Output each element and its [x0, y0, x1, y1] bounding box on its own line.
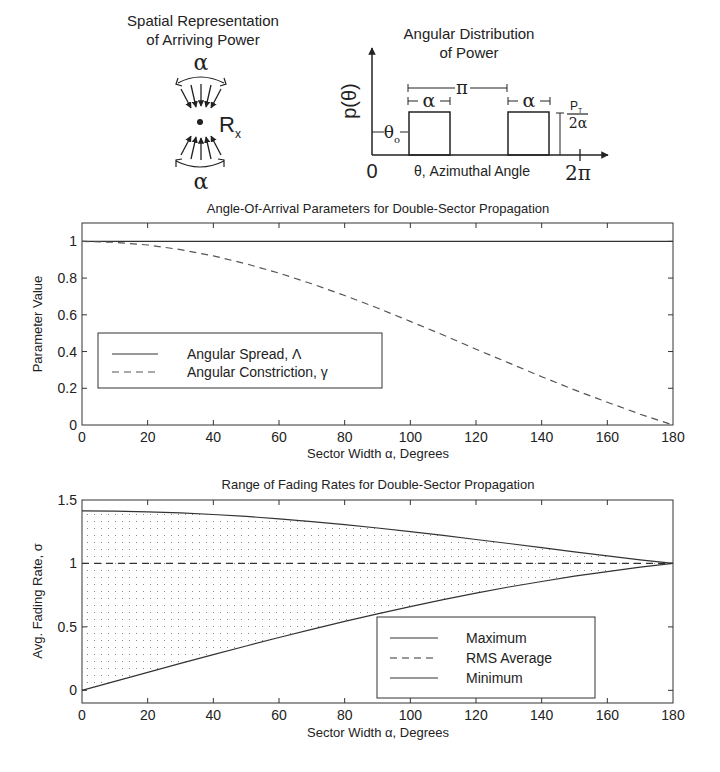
- y-tick-label: 0.4: [58, 344, 78, 360]
- x-tick-label: 160: [596, 707, 620, 723]
- x-tick-label: 160: [596, 429, 620, 445]
- legend-maximum: Maximum: [466, 630, 527, 646]
- legend-rms-average: RMS Average: [466, 650, 552, 666]
- x-tick-label: 100: [399, 429, 423, 445]
- y-tick-label: 0.2: [58, 380, 78, 396]
- chart1-xlabel: Sector Width α, Degrees: [307, 446, 449, 461]
- alpha-width-1: α: [423, 89, 436, 111]
- x-tick-label: 100: [399, 707, 423, 723]
- legend-angular-spread: Angular Spread, Λ: [187, 346, 302, 362]
- x-tick-label: 180: [661, 429, 685, 445]
- chart1-ylabel: Parameter Value: [30, 276, 45, 373]
- receiver-dot: [197, 119, 203, 125]
- sector-pulse-2: [508, 112, 549, 155]
- x-tick-label: 120: [464, 429, 488, 445]
- alpha-bottom-label: α: [194, 169, 209, 194]
- two-pi-label: 2π: [565, 161, 591, 185]
- alpha-width-2: α: [523, 89, 536, 111]
- height-denominator: 2α: [569, 115, 588, 131]
- incoming-arrows-bottom: [181, 136, 221, 160]
- x-tick-label: 60: [271, 707, 287, 723]
- y-tick-label: 0.8: [58, 270, 78, 286]
- x-tick-label: 140: [530, 707, 554, 723]
- azimuthal-angle-label: θ, Azimuthal Angle: [414, 163, 530, 179]
- pi-label: π: [456, 77, 468, 98]
- y-tick-label: 1: [69, 555, 77, 571]
- x-tick-label: 60: [271, 429, 287, 445]
- chart1-legend: Angular Spread, Λ Angular Constriction, …: [98, 333, 382, 388]
- figure: Spatial Representation of Arriving Power…: [0, 0, 720, 772]
- x-tick-label: 0: [78, 429, 86, 445]
- x-tick-label: 40: [206, 429, 222, 445]
- spatial-diagram: Spatial Representation of Arriving Power…: [127, 12, 279, 194]
- chart2-ylabel: Avg. Fading Rate, σ: [30, 543, 45, 658]
- x-tick-label: 180: [661, 707, 685, 723]
- spatial-title-1: Spatial Representation: [127, 12, 279, 29]
- p-theta-label: p(θ): [338, 83, 360, 119]
- sector-pulse-1: [409, 112, 450, 155]
- chart2-xlabel: Sector Width α, Degrees: [307, 725, 449, 740]
- angular-title-1: Angular Distribution: [404, 25, 535, 42]
- y-tick-label: 0: [69, 417, 77, 433]
- y-tick-label: 0.6: [58, 307, 78, 323]
- spatial-title-2: of Arriving Power: [146, 31, 259, 48]
- theta0-label: θo: [384, 122, 400, 145]
- y-tick-label: 0.5: [58, 619, 78, 635]
- aoa-parameters-chart: Angle-Of-Arrival Parameters for Double-S…: [30, 201, 685, 461]
- legend-angular-constriction: Angular Constriction, γ: [187, 364, 328, 380]
- alpha-top-label: α: [194, 50, 209, 75]
- y-tick-label: 1: [69, 233, 77, 249]
- receiver-label: Rx: [219, 112, 241, 141]
- chart1-axes: [82, 223, 673, 425]
- x-tick-label: 40: [206, 707, 222, 723]
- x-tick-label: 80: [337, 707, 353, 723]
- y-tick-label: 1.5: [58, 492, 78, 508]
- y-tick-label: 0: [69, 682, 77, 698]
- x-tick-label: 0: [78, 707, 86, 723]
- x-tick-label: 120: [464, 707, 488, 723]
- alpha-arc-bottom: [176, 161, 224, 167]
- alpha-arc-top: [178, 77, 224, 83]
- height-numerator: PT: [570, 99, 583, 114]
- x-tick-label: 140: [530, 429, 554, 445]
- x-tick-label: 20: [140, 707, 156, 723]
- origin-label: 0: [366, 160, 377, 182]
- chart2-legend: Maximum RMS Average Minimum: [377, 617, 595, 698]
- chart2-title: Range of Fading Rates for Double-Sector …: [222, 477, 535, 492]
- x-tick-label: 20: [140, 429, 156, 445]
- legend-minimum: Minimum: [466, 670, 523, 686]
- height-dimension: [556, 113, 564, 155]
- fading-rates-chart: Range of Fading Rates for Double-Sector …: [30, 477, 685, 740]
- chart1-title: Angle-Of-Arrival Parameters for Double-S…: [207, 201, 549, 216]
- angular-title-2: of Power: [439, 44, 498, 61]
- x-tick-label: 80: [337, 429, 353, 445]
- incoming-arrows-top: [181, 84, 221, 108]
- angular-distribution-diagram: Angular Distribution of Power p(θ) 0 2π …: [338, 25, 608, 185]
